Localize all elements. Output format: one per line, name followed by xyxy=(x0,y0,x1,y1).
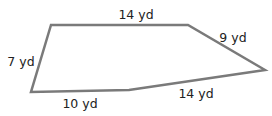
side-label-left: 7 yd xyxy=(7,54,34,69)
pentagon-diagram: 14 yd 9 yd 14 yd 10 yd 7 yd xyxy=(0,0,272,116)
side-label-lower-right: 14 yd xyxy=(178,86,213,101)
side-label-upper-right: 9 yd xyxy=(219,30,246,45)
side-label-top: 14 yd xyxy=(118,7,153,22)
side-label-bottom: 10 yd xyxy=(62,96,97,111)
